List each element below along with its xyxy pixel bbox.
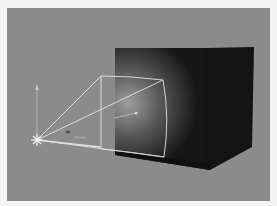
3d-viewport[interactable]	[7, 8, 270, 201]
light-target-marker	[66, 131, 71, 134]
up-axis-arrow-icon[interactable]	[35, 84, 39, 140]
cube-side-face[interactable]	[205, 47, 254, 170]
forward-axis-line	[37, 140, 100, 147]
cone-center-point	[135, 112, 138, 115]
scene-canvas[interactable]	[7, 8, 270, 201]
